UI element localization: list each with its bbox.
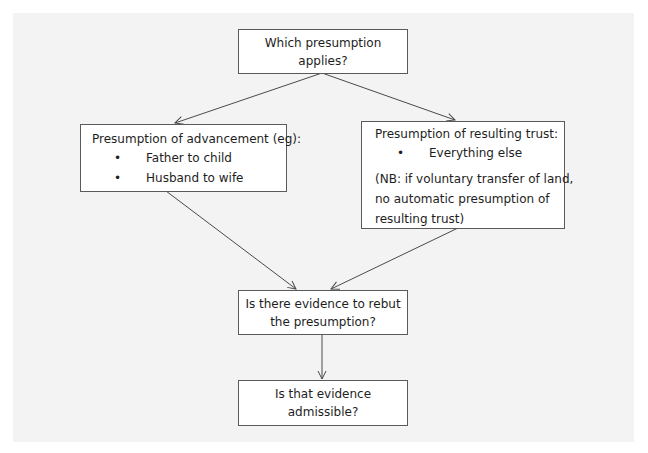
resulting-trust-note: (NB: if voluntary transfer of land, no a…	[375, 169, 564, 229]
node-which-presumption-label: Which presumption applies?	[239, 34, 407, 70]
resulting-trust-heading: Presumption of resulting trust:	[375, 125, 564, 143]
node-evidence-admissible: Is that evidence admissible?	[238, 380, 408, 426]
node-presumption-of-resulting-trust: Presumption of resulting trust: Everythi…	[361, 121, 565, 229]
resulting-trust-item: Everything else	[397, 143, 564, 163]
node-which-presumption: Which presumption applies?	[238, 29, 408, 74]
node-evidence-to-rebut-line: the presumption?	[270, 313, 376, 331]
node-evidence-admissible-label: Is that evidence admissible?	[239, 385, 407, 421]
arrow-start-to-advancement	[175, 73, 322, 123]
node-presumption-of-advancement: Presumption of advancement (eg): Father …	[80, 124, 287, 192]
node-evidence-to-rebut-line: Is there evidence to rebut	[245, 295, 400, 313]
advancement-example-item: Father to child	[114, 148, 286, 168]
advancement-examples-list: Father to child Husband to wife	[92, 148, 286, 188]
advancement-example-item: Husband to wife	[114, 168, 286, 188]
resulting-trust-note-line: no automatic presumption of	[375, 189, 564, 209]
resulting-trust-note-line: resulting trust)	[375, 209, 564, 229]
arrow-resulting-trust-to-rebut	[331, 228, 458, 289]
arrow-start-to-resulting-trust	[322, 73, 455, 120]
resulting-trust-list: Everything else	[375, 143, 564, 163]
advancement-heading: Presumption of advancement (eg):	[92, 130, 286, 148]
arrow-advancement-to-rebut	[166, 191, 296, 289]
node-evidence-to-rebut: Is there evidence to rebut the presumpti…	[238, 290, 408, 335]
resulting-trust-note-line: (NB: if voluntary transfer of land,	[375, 169, 564, 189]
